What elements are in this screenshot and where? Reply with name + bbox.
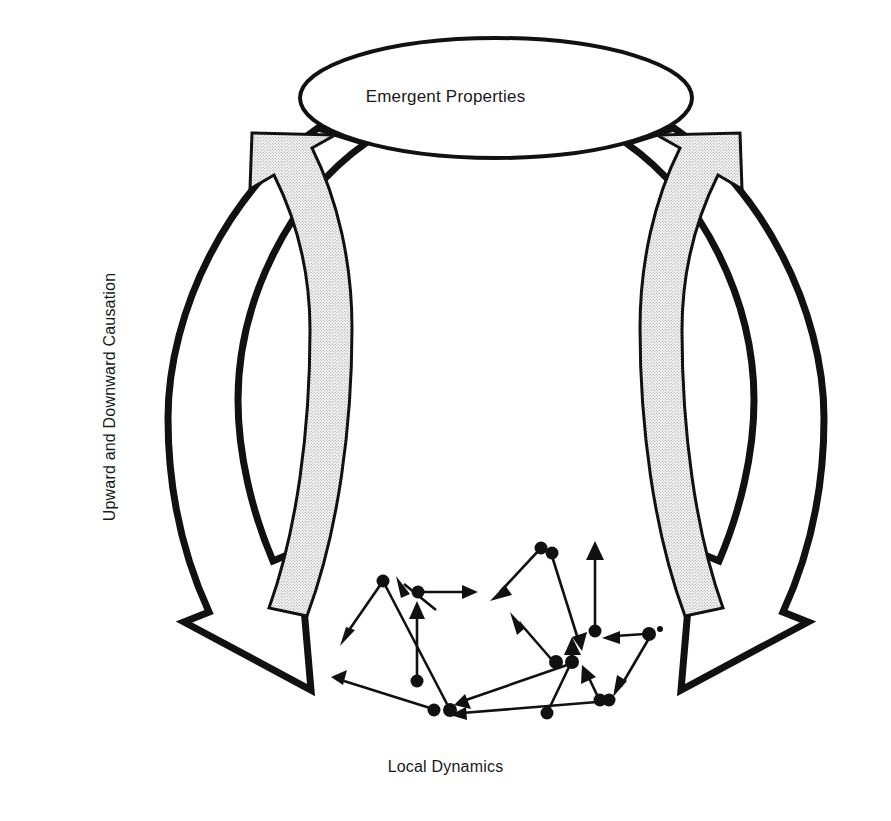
emergence-causation-diagram: Emergent Properties Local Dynamics Upwar… (0, 0, 891, 821)
upward-downward-causation-label: Upward and Downward Causation (101, 187, 119, 607)
diagram-canvas (0, 0, 891, 821)
local-dynamics-network (331, 541, 663, 720)
emergent-properties-label: Emergent Properties (0, 87, 891, 107)
local-dynamics-label: Local Dynamics (0, 758, 891, 776)
